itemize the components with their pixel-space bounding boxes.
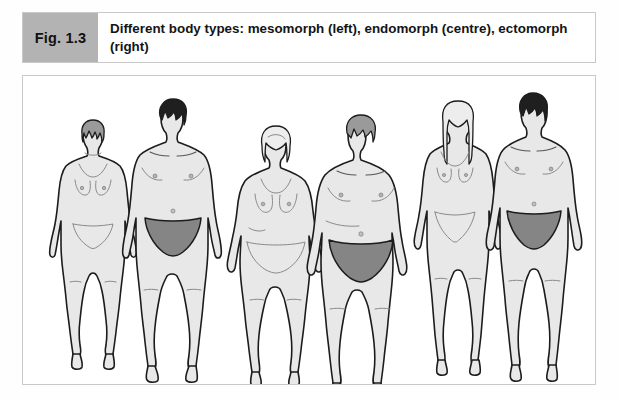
figure-illustration-frame	[22, 75, 596, 385]
mesomorph-female-foot-left	[72, 354, 83, 369]
ectomorph-male-foot-right	[547, 365, 558, 381]
ectomorph-male	[486, 93, 581, 381]
endomorph-male-nipple-left	[339, 193, 343, 197]
ectomorph-group	[414, 93, 581, 381]
mesomorph-male-foot-right	[186, 366, 198, 382]
endomorph-female-foot-left	[251, 372, 262, 384]
endomorph-female	[227, 126, 322, 384]
mesomorph-male-foot-left	[146, 366, 158, 382]
body-types-illustration	[23, 76, 595, 384]
endomorph-female-foot-right	[289, 372, 300, 384]
mesomorph-female-nipple-left	[80, 186, 83, 189]
endomorph-male-foot-right	[372, 383, 383, 384]
mesomorph-group	[50, 99, 222, 382]
mesomorph-female-foot-right	[104, 354, 115, 369]
figure-number-label: Fig. 1.3	[23, 13, 98, 62]
endomorph-male-nipple-right	[379, 193, 383, 197]
ectomorph-female-foot-right	[470, 360, 481, 375]
ectomorph-female-foot-left	[437, 360, 448, 375]
endomorph-female-nipple-right	[287, 202, 291, 206]
ectomorph-male-nipple-right	[549, 167, 553, 171]
figure-root: Fig. 1.3 Different body types: mesomorph…	[0, 0, 618, 400]
ectomorph-female-nipple-right	[464, 173, 467, 176]
figure-caption-text: Different body types: mesomorph (left), …	[98, 13, 595, 62]
endomorph-male-navel	[359, 232, 363, 236]
mesomorph-male-nipple-right	[189, 174, 193, 178]
ectomorph-male-nipple-left	[515, 167, 519, 171]
mesomorph-male-navel	[171, 209, 175, 213]
ectomorph-male-foot-left	[510, 365, 521, 381]
mesomorph-male-nipple-left	[153, 174, 157, 178]
figure-caption-bar: Fig. 1.3 Different body types: mesomorph…	[22, 12, 596, 63]
mesomorph-male	[123, 99, 222, 382]
endomorph-group	[227, 115, 406, 384]
endomorph-female-body	[227, 132, 322, 376]
endomorph-female-nipple-left	[261, 202, 265, 206]
ectomorph-female-nipple-left	[442, 173, 445, 176]
endomorph-male-foot-left	[331, 383, 342, 384]
mesomorph-female-nipple-right	[102, 186, 105, 189]
ectomorph-male-navel	[532, 202, 536, 206]
endomorph-male	[307, 115, 406, 384]
